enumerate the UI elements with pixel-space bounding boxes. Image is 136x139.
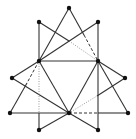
vertex-point-bc <box>67 111 71 115</box>
segment-solid <box>69 113 98 130</box>
segment-solid <box>39 8 69 61</box>
geometric-star-diagram <box>0 0 136 139</box>
vertex-point-ur <box>96 20 100 24</box>
segment-solid <box>98 61 128 113</box>
vertex-point-t <box>67 6 71 10</box>
segment-solid <box>39 61 69 113</box>
segment-solid <box>12 78 69 113</box>
segment-solid <box>69 8 84 35</box>
vertex-point-bl <box>8 111 12 115</box>
vertex-point-r <box>123 76 127 80</box>
vertex-point-dl <box>37 128 41 132</box>
segment-dashed <box>84 35 98 61</box>
vertex-point-ml <box>37 59 41 63</box>
segment-solid <box>69 61 98 113</box>
diagram-svg <box>0 0 136 139</box>
vertex-point-mr <box>96 59 100 63</box>
vertex-point-l <box>10 76 14 80</box>
vertex-point-dr <box>96 128 100 132</box>
segment-solid <box>97 78 125 96</box>
segment-solid <box>10 83 27 113</box>
vertex-point-ul <box>37 20 41 24</box>
segment-solid <box>98 61 125 78</box>
segment-dotted <box>69 41 98 61</box>
segment-solid <box>12 61 39 78</box>
segment-solid <box>39 113 69 130</box>
vertex-point-br <box>126 111 130 115</box>
segment-solid <box>39 22 69 41</box>
